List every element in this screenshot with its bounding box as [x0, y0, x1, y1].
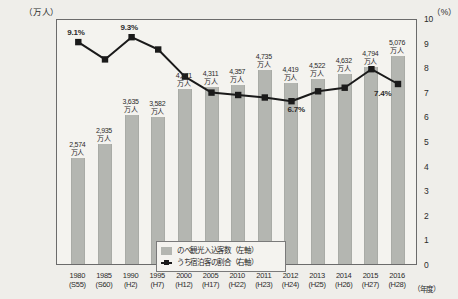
right-axis-tick: 4	[424, 163, 450, 172]
bar-value-label: 4,522万人	[302, 62, 332, 78]
bar-value-label: 5,076万人	[382, 39, 412, 55]
bar-value-label: 4,794万人	[355, 50, 385, 66]
legend-line-label: うち宿泊客の割合（右軸）	[177, 258, 257, 267]
right-axis-tick: 7	[424, 89, 450, 98]
line-marker	[342, 85, 348, 91]
right-axis-tick: 6	[424, 113, 450, 122]
right-axis-tick: 3	[424, 187, 450, 196]
right-axis-tick: 10	[424, 15, 450, 24]
line-value-label: 9.1%	[67, 28, 84, 37]
bar-value-label: 4,735万人	[249, 53, 279, 69]
line-marker	[102, 56, 108, 62]
legend-line-marker-icon	[161, 259, 172, 267]
line-value-label: 9.3%	[121, 23, 138, 32]
legend-item-line: うち宿泊客の割合（右軸）	[161, 257, 281, 268]
right-axis-tick: 5	[424, 138, 450, 147]
right-axis-tick: 8	[424, 64, 450, 73]
bar-value-label: 4,311万人	[196, 70, 226, 86]
line-marker	[368, 66, 374, 72]
tourism-visitors-chart: （万人） （%） 6,0005,0004,0003,0002,0001,0000…	[0, 0, 458, 299]
right-axis-tick: 2	[424, 212, 450, 221]
right-axis-tick: 1	[424, 236, 450, 245]
line-marker	[262, 94, 268, 100]
bar-value-label: 4,357万人	[222, 68, 252, 84]
bar-value-label: 2,574万人	[62, 141, 92, 157]
bar-value-label: 4,271万人	[169, 72, 199, 88]
line-marker	[315, 88, 321, 94]
line-marker	[75, 39, 81, 45]
legend-bar-swatch-icon	[161, 247, 172, 255]
left-axis-unit-label: （万人）	[24, 5, 59, 17]
right-axis-tick: 9	[424, 40, 450, 49]
line-value-label: 7.4%	[374, 89, 391, 98]
chart-legend: のべ観光入込客数（左軸） うち宿泊客の割合（右軸）	[156, 241, 286, 272]
x-axis-unit-label: （年度）	[413, 283, 440, 294]
bar-value-label: 3,635万人	[116, 98, 146, 114]
line-marker	[155, 46, 161, 52]
bar-value-label: 2,935万人	[89, 127, 119, 143]
line-marker	[288, 98, 294, 104]
line-marker	[128, 34, 134, 40]
line-value-label: 6.7%	[287, 105, 304, 114]
bar-value-label: 4,419万人	[275, 66, 305, 82]
line-marker	[208, 89, 214, 95]
right-axis-tick: 0	[424, 261, 450, 270]
legend-item-bar: のべ観光入込客数（左軸）	[161, 245, 281, 256]
bar-value-label: 3,582万人	[142, 100, 172, 116]
line-marker	[395, 81, 401, 87]
x-axis-tick: 2016(H28)	[381, 271, 413, 289]
bar-value-label: 4,632万人	[329, 57, 359, 73]
legend-bar-label: のべ観光入込客数（左軸）	[177, 246, 257, 255]
line-marker	[235, 92, 241, 98]
